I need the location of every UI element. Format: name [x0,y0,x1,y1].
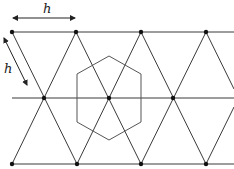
node [10,30,14,34]
node [171,96,175,100]
node [42,96,46,100]
horizontal-spacing-label: h [43,1,51,16]
diagonal-spacing-label: h [4,61,12,76]
node [204,162,208,166]
node [75,162,79,166]
node [139,162,143,166]
node [74,30,78,34]
node [204,30,208,34]
triangular-lattice-diagram: h h [0,0,234,169]
node [139,30,143,34]
node-center [107,96,111,100]
node [10,162,14,166]
